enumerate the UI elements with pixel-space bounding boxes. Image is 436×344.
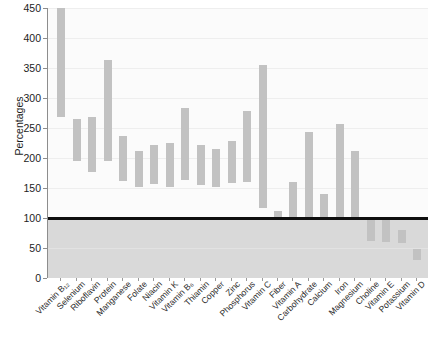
y-tick-label-0: 0 (0, 272, 41, 284)
x-tick-mark-19 (354, 278, 355, 281)
x-tick-mark-17 (323, 278, 324, 281)
bar-choline (367, 217, 375, 241)
x-tick-mark-11 (231, 278, 232, 281)
bar-chart: Percentages 050100150200250300350400450 … (0, 0, 436, 344)
y-tick-label-300: 300 (0, 92, 41, 104)
x-tick-mark-8 (184, 278, 185, 281)
bar-thiamin (197, 145, 205, 185)
bar-vitamin-c (259, 65, 267, 208)
y-tick-label-50: 50 (0, 242, 41, 254)
x-tick-mark-22 (401, 278, 402, 281)
x-tick-mark-9 (200, 278, 201, 281)
y-tick-mark-200 (43, 158, 47, 159)
y-tick-label-450: 450 (0, 2, 41, 14)
y-tick-mark-50 (43, 248, 47, 249)
x-tick-mark-14 (277, 278, 278, 281)
x-tick-mark-5 (138, 278, 139, 281)
bar-vitamin-b₆ (181, 108, 189, 180)
bar-carbohydrate (305, 132, 313, 218)
bar-niacin (150, 145, 158, 184)
x-tick-mark-21 (385, 278, 386, 281)
x-tick-mark-0 (60, 278, 61, 281)
x-tick-mark-7 (169, 278, 170, 281)
x-tick-mark-16 (308, 278, 309, 281)
bar-phosphorus (243, 111, 251, 182)
bar-vitamin-k (166, 143, 174, 187)
gridline-450 (48, 8, 428, 9)
plot-area (47, 8, 428, 278)
y-tick-mark-100 (43, 218, 47, 219)
bar-riboflavin (88, 117, 96, 172)
y-tick-mark-400 (43, 38, 47, 39)
y-tick-mark-300 (43, 98, 47, 99)
gridline-150 (48, 188, 428, 189)
bar-iron (336, 124, 344, 218)
y-tick-mark-250 (43, 128, 47, 129)
bar-vitamin-e (382, 218, 390, 242)
x-tick-mark-18 (339, 278, 340, 281)
gridline-50 (48, 248, 428, 249)
bar-manganese (119, 136, 127, 181)
gridline-400 (48, 38, 428, 39)
bar-potassium (398, 230, 406, 243)
x-tick-mark-23 (416, 278, 417, 281)
y-tick-label-200: 200 (0, 152, 41, 164)
bar-selenium (73, 119, 81, 161)
x-tick-mark-10 (215, 278, 216, 281)
x-tick-mark-20 (370, 278, 371, 281)
bar-copper (212, 149, 220, 187)
y-tick-label-150: 150 (0, 182, 41, 194)
y-tick-mark-350 (43, 68, 47, 69)
x-tick-mark-13 (262, 278, 263, 281)
x-tick-mark-1 (76, 278, 77, 281)
bar-vitamin-a (289, 182, 297, 218)
bar-calcium (320, 194, 328, 218)
x-tick-mark-2 (91, 278, 92, 281)
y-tick-label-100: 100 (0, 212, 41, 224)
y-tick-label-400: 400 (0, 32, 41, 44)
bar-vitamin-b₁₂ (57, 8, 65, 117)
y-tick-label-350: 350 (0, 62, 41, 74)
y-tick-mark-150 (43, 188, 47, 189)
x-tick-mark-6 (153, 278, 154, 281)
bar-vitamin-d (413, 249, 421, 260)
bar-protein (104, 60, 112, 161)
bar-magnesium (351, 151, 359, 218)
x-axis-labels: Vitamin B₁₂SeleniumRiboflavinProteinMang… (47, 279, 428, 344)
bar-folate (135, 151, 143, 187)
y-tick-label-250: 250 (0, 122, 41, 134)
x-tick-mark-3 (107, 278, 108, 281)
bar-zinc (228, 141, 236, 183)
x-tick-mark-4 (122, 278, 123, 281)
reference-line-100 (48, 217, 428, 220)
x-tick-mark-12 (246, 278, 247, 281)
x-tick-mark-15 (292, 278, 293, 281)
y-tick-mark-450 (43, 8, 47, 9)
